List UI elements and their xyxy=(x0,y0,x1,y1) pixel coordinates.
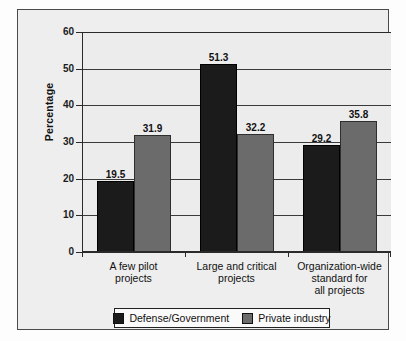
bar-private-industry-3[interactable]: 35.8 xyxy=(340,121,377,252)
legend-swatch-icon-defense-government xyxy=(113,313,124,324)
x-category-label-2: Large and critical projects xyxy=(185,260,288,284)
bar-value-label-31-9: 31.9 xyxy=(143,123,162,134)
x-tick-start xyxy=(82,251,83,257)
bar-defense-government-3[interactable]: 29.2 xyxy=(303,145,340,252)
legend-label-private-industry: Private industry xyxy=(258,312,330,324)
x-tick-2 xyxy=(288,251,289,257)
figure-panel: Percentage 60 50 40 30 20 10 0 xyxy=(17,9,389,330)
legend-item-private-industry[interactable]: Private industry xyxy=(242,312,330,324)
legend-swatch-icon-private-industry xyxy=(242,313,253,324)
chart-legend: Defense/Government Private industry xyxy=(114,308,330,328)
x-axis-baseline xyxy=(82,251,391,253)
bar-value-label-35-8: 35.8 xyxy=(349,109,368,120)
x-category-label-3: Organization-wide standard for all proje… xyxy=(287,260,392,296)
bar-defense-government-2[interactable]: 51.3 xyxy=(200,64,237,252)
bar-defense-government-1[interactable]: 19.5 xyxy=(97,181,134,253)
legend-item-defense-government[interactable]: Defense/Government xyxy=(113,312,229,324)
bar-private-industry-2[interactable]: 32.2 xyxy=(237,134,274,252)
bar-value-label-51-3: 51.3 xyxy=(209,52,228,63)
bar-private-industry-1[interactable]: 31.9 xyxy=(134,135,171,252)
bar-value-label-29-2: 29.2 xyxy=(312,133,331,144)
legend-label-defense-government: Defense/Government xyxy=(129,312,229,324)
plot-area: 19.5 31.9 51.3 32.2 29.2 xyxy=(82,32,391,252)
bar-group-large-and-critical-projects: 51.3 32.2 xyxy=(200,32,288,252)
bar-group-a-few-pilot-projects: 19.5 31.9 xyxy=(97,32,185,252)
bar-group-organization-wide-standard: 29.2 35.8 xyxy=(303,32,391,252)
y-axis-tick-marks xyxy=(18,32,82,252)
x-tick-end xyxy=(390,251,391,257)
chart-page: Percentage 60 50 40 30 20 10 0 xyxy=(0,0,406,341)
bar-value-label-19-5: 19.5 xyxy=(106,169,125,180)
x-tick-1 xyxy=(185,251,186,257)
x-category-label-1: A few pilot projects xyxy=(82,260,185,284)
bar-value-label-32-2: 32.2 xyxy=(246,122,265,133)
